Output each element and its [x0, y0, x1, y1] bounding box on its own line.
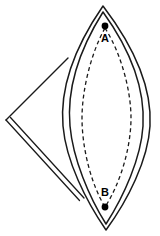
geometry-diagram: A B	[0, 0, 160, 236]
diagram-canvas: A B	[0, 0, 160, 236]
point-b-label: B	[101, 186, 109, 198]
point-a-marker	[102, 23, 109, 30]
point-a-label: A	[101, 32, 109, 44]
point-b-marker	[102, 204, 109, 211]
